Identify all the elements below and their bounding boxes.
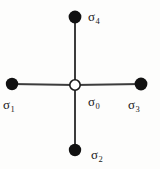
node-label-sigma2: σ2: [91, 148, 103, 163]
spin-cluster-figure: σ4 σ1 σ0 σ3 σ2: [0, 0, 160, 169]
node-label-sigma0: σ0: [88, 95, 100, 110]
sigma-symbol: σ: [128, 97, 135, 112]
node-bottom-sigma2[interactable]: [69, 144, 81, 156]
sigma-subscript: 2: [98, 154, 103, 164]
sigma-subscript: 4: [95, 16, 100, 26]
node-label-sigma1: σ1: [3, 98, 15, 113]
sigma-subscript: 1: [10, 104, 15, 114]
edge-center-right: [75, 84, 141, 85]
sigma-symbol: σ: [88, 94, 95, 109]
node-top-sigma4[interactable]: [69, 11, 82, 24]
sigma-symbol: σ: [91, 147, 98, 162]
diagram-canvas: [0, 0, 160, 169]
sigma-symbol: σ: [88, 9, 95, 24]
sigma-symbol: σ: [3, 97, 10, 112]
sigma-subscript: 3: [135, 104, 140, 114]
node-center-sigma0[interactable]: [70, 80, 80, 90]
edge-center-left: [12, 84, 75, 85]
sigma-subscript: 0: [95, 101, 100, 111]
node-label-sigma3: σ3: [128, 98, 140, 113]
node-left-sigma1[interactable]: [6, 78, 18, 90]
node-label-sigma4: σ4: [88, 10, 100, 25]
node-right-sigma3[interactable]: [135, 78, 148, 91]
